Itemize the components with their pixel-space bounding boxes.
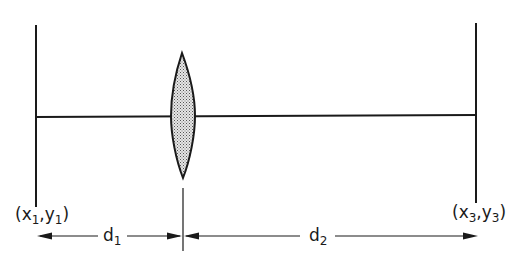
d2-arrowhead-right-icon (463, 233, 478, 240)
output-plane-label: (x3,y3) (452, 202, 506, 225)
d2-arrowhead-left-icon (184, 233, 199, 240)
optics-diagram: (x1,y1) (x3,y3) d1 d2 (0, 0, 524, 263)
d1-arrowhead-right-icon (167, 233, 182, 240)
d1-label: d1 (103, 225, 121, 248)
input-plane-label: (x1,y1) (15, 204, 69, 227)
d2-label: d2 (309, 225, 327, 248)
optical-axis (36, 115, 476, 117)
lens-icon (171, 53, 195, 178)
d1-arrowhead-left-icon (37, 233, 52, 240)
